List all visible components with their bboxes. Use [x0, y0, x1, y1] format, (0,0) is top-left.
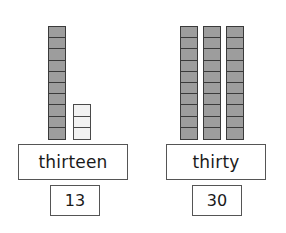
unit-cube — [226, 127, 244, 140]
number-label-thirty[interactable]: 30 — [192, 185, 242, 216]
unit-cube — [73, 127, 91, 140]
rod-tens-2[interactable] — [203, 26, 221, 138]
rod-tens-1[interactable] — [48, 26, 66, 138]
word-label-thirteen[interactable]: thirteen — [18, 144, 128, 180]
word-label-thirty[interactable]: thirty — [166, 144, 266, 180]
unit-cube — [180, 127, 198, 140]
rod-tens-3[interactable] — [226, 26, 244, 138]
number-label-thirteen[interactable]: 13 — [50, 185, 100, 216]
unit-cube — [48, 127, 66, 140]
rod-tens-1[interactable] — [180, 26, 198, 138]
block-group-thirty — [180, 10, 244, 138]
unit-cube — [203, 127, 221, 140]
worksheet-canvas: thirteen 13 — [0, 0, 286, 233]
rod-ones-1[interactable] — [73, 104, 91, 138]
rod-stack-thirteen — [48, 10, 91, 138]
block-group-thirteen — [48, 10, 138, 138]
rod-stack-thirty — [180, 10, 244, 138]
